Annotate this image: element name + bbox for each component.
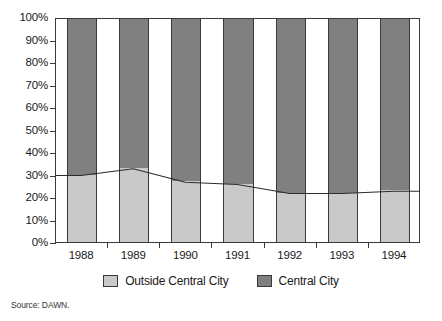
bar-group[interactable]: [171, 19, 201, 242]
y-tick-mark: [50, 108, 56, 109]
y-tick-mark: [50, 243, 56, 244]
bar-stack[interactable]: [223, 19, 253, 242]
y-tick-label: 60%: [0, 102, 48, 114]
x-tick-label: 1989: [107, 250, 159, 262]
legend-item[interactable]: Central City: [257, 275, 339, 287]
bar-segment-central-city[interactable]: [224, 19, 252, 186]
y-tick-label: 100%: [0, 12, 48, 24]
bar-segment-central-city[interactable]: [68, 19, 96, 177]
y-tick-label: 20%: [0, 192, 48, 204]
bar-group[interactable]: [328, 19, 358, 242]
bar-stack[interactable]: [171, 19, 201, 242]
x-tick-label: 1993: [316, 250, 368, 262]
bar-segment-central-city[interactable]: [381, 19, 409, 192]
bar-segment-central-city[interactable]: [172, 19, 200, 183]
y-tick-label: 30%: [0, 170, 48, 182]
x-tick-label: 1991: [212, 250, 264, 262]
bar-group[interactable]: [223, 19, 253, 242]
bar-segment-central-city[interactable]: [120, 19, 148, 170]
y-tick-label: 0%: [0, 237, 48, 249]
y-tick-mark: [50, 153, 56, 154]
y-tick-mark: [50, 41, 56, 42]
y-tick-mark: [50, 86, 56, 87]
legend-label: Central City: [279, 275, 339, 287]
chart-figure: 0%10%20%30%40%50%60%70%80%90%100% 198819…: [0, 0, 442, 321]
x-tick-label: 1990: [159, 250, 211, 262]
bar-stack[interactable]: [328, 19, 358, 242]
x-tick-label: 1988: [55, 250, 107, 262]
chart-legend: Outside Central CityCentral City: [0, 275, 442, 287]
bar-group[interactable]: [119, 19, 149, 242]
bar-segment-outside-central-city[interactable]: [120, 168, 148, 242]
y-tick-mark: [50, 198, 56, 199]
bar-segment-outside-central-city[interactable]: [329, 193, 357, 243]
bar-segment-outside-central-city[interactable]: [277, 193, 305, 243]
bar-stack[interactable]: [276, 19, 306, 242]
bar-group[interactable]: [67, 19, 97, 242]
plot-area: [55, 18, 420, 243]
x-tick-mark: [211, 243, 212, 248]
y-tick-mark: [50, 63, 56, 64]
bar-stack[interactable]: [67, 19, 97, 242]
x-tick-mark: [316, 243, 317, 248]
legend-label: Outside Central City: [125, 275, 228, 287]
x-tick-mark: [107, 243, 108, 248]
bar-segment-outside-central-city[interactable]: [172, 181, 200, 242]
y-tick-label: 10%: [0, 215, 48, 227]
source-note: Source: DAWN.: [11, 301, 69, 310]
legend-swatch-icon: [257, 275, 272, 287]
bar-segment-outside-central-city[interactable]: [381, 190, 409, 242]
bar-segment-central-city[interactable]: [329, 19, 357, 195]
y-tick-label: 90%: [0, 35, 48, 47]
x-tick-mark: [264, 243, 265, 248]
y-tick-label: 80%: [0, 57, 48, 69]
y-axis: 0%10%20%30%40%50%60%70%80%90%100%: [0, 0, 48, 321]
x-tick-mark: [159, 243, 160, 248]
x-tick-mark: [368, 243, 369, 248]
bar-segment-outside-central-city[interactable]: [68, 175, 96, 243]
bars-layer: [56, 19, 419, 242]
y-tick-mark: [50, 131, 56, 132]
bar-segment-central-city[interactable]: [277, 19, 305, 195]
legend-swatch-icon: [103, 275, 118, 287]
bar-group[interactable]: [276, 19, 306, 242]
bar-stack[interactable]: [119, 19, 149, 242]
y-tick-label: 70%: [0, 80, 48, 92]
legend-item[interactable]: Outside Central City: [103, 275, 228, 287]
y-tick-label: 40%: [0, 147, 48, 159]
x-tick-label: 1994: [368, 250, 420, 262]
y-tick-mark: [50, 221, 56, 222]
x-tick-label: 1992: [264, 250, 316, 262]
y-tick-label: 50%: [0, 125, 48, 137]
bar-segment-outside-central-city[interactable]: [224, 184, 252, 243]
bar-stack[interactable]: [380, 19, 410, 242]
y-tick-mark: [50, 176, 56, 177]
bar-group[interactable]: [380, 19, 410, 242]
